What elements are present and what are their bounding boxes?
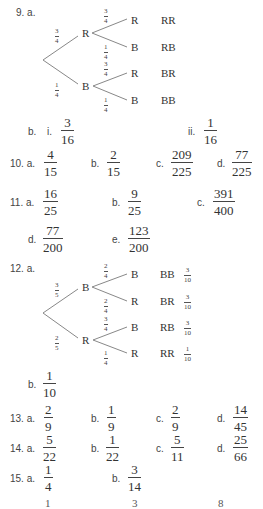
- q12-leaf-node: R: [131, 295, 138, 307]
- q14-a-answer: 522: [43, 433, 56, 463]
- q12-outcome-prob: 310: [184, 294, 191, 311]
- q13-d-label: d.: [217, 413, 225, 424]
- q14-b-label: b.: [91, 443, 99, 454]
- q15-a-answer: 14: [44, 463, 53, 493]
- q13-a-answer: 29: [44, 403, 53, 433]
- question-14-label: 14. a.: [10, 443, 35, 454]
- q12-outcome: RB: [160, 321, 175, 333]
- q12-outcome-prob: 310: [184, 320, 191, 337]
- q12-b-label: b.: [28, 379, 36, 390]
- question-15-label: 15. a.: [10, 473, 35, 484]
- q14-c-answer: 511: [171, 433, 184, 463]
- q14-d-answer: 2566: [233, 433, 248, 463]
- q12-outcome: RR: [160, 347, 175, 359]
- q12-branch-prob-bb: 24: [104, 263, 108, 280]
- q12-leaf-node: B: [131, 321, 138, 333]
- q13-c-label: c.: [156, 413, 164, 424]
- q14-b-answer: 122: [106, 433, 119, 463]
- cutoff-text-left: 1: [45, 497, 51, 509]
- q12-outcome-prob: 110: [184, 346, 191, 363]
- q13-b-answer: 19: [107, 403, 116, 433]
- q12-outcome-prob: 310: [184, 267, 191, 284]
- q12-branch-prob-b: 35: [55, 282, 59, 299]
- q13-d-answer: 1445: [233, 403, 248, 433]
- q12-branch-prob-r: 25: [55, 335, 59, 352]
- q12-branch-prob-rb: 34: [104, 316, 108, 333]
- q12-outcome: BR: [160, 295, 175, 307]
- cutoff-text-right: 8: [218, 497, 224, 509]
- q12-tree-lines: [0, 0, 263, 370]
- q12-leaf-node: R: [131, 347, 138, 359]
- q12-b-answer: 110: [43, 369, 56, 399]
- cutoff-text-middle: 3: [132, 497, 138, 509]
- q15-b-answer: 314: [128, 463, 141, 493]
- q14-c-label: c.: [156, 443, 164, 454]
- q12-node-r: R: [82, 334, 89, 346]
- q13-b-label: b.: [91, 413, 99, 424]
- question-13-label: 13. a.: [10, 413, 35, 424]
- q12-branch-prob-rr: 14: [104, 350, 108, 367]
- q15-b-label: b.: [112, 473, 120, 484]
- q12-node-b: B: [82, 281, 89, 293]
- q14-d-label: d.: [217, 443, 225, 454]
- q12-branch-prob-br: 24: [104, 298, 108, 315]
- q12-outcome: BB: [160, 268, 175, 280]
- q12-leaf-node: B: [131, 268, 138, 280]
- q13-c-answer: 29: [171, 403, 180, 433]
